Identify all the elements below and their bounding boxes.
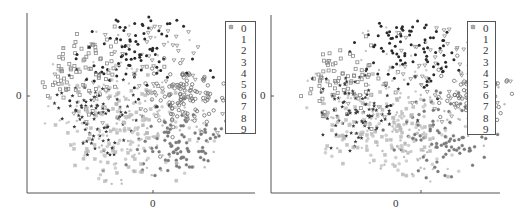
legend-marker-icon [470,57,482,67]
legend-item: 2 [470,45,492,56]
scatter-panel-left: 0 0 0123456789 [0,0,258,221]
legend-item: 2 [228,45,252,56]
legend: 0123456789 [467,21,496,135]
legend-marker-icon [228,46,240,56]
legend-item: 9 [228,124,252,135]
scatter-panel-right: 0 0 0123456789 [258,0,516,221]
legend-marker-icon [228,68,240,78]
legend-item: 1 [470,34,492,45]
legend-item: 4 [228,68,252,79]
legend-marker-icon [228,102,240,112]
legend-label: 8 [241,113,247,124]
legend-marker-icon [470,91,482,101]
y-tick-label-zero: 0 [16,90,22,101]
legend-label: 7 [241,101,247,112]
legend-marker-icon [470,46,482,56]
legend: 0123456789 [225,21,256,134]
x-tick-label-zero: 0 [150,198,156,209]
legend-item: 7 [470,101,492,112]
legend-label: 3 [241,57,247,68]
legend-marker-icon [228,91,240,101]
legend-marker-icon [228,57,240,67]
legend-label: 3 [483,57,489,68]
legend-label: 7 [483,101,489,112]
y-tick-label-zero: 0 [260,90,266,101]
x-tick-label-zero: 0 [393,198,399,209]
legend-marker-icon [228,113,240,123]
legend-label: 2 [483,45,489,56]
legend-marker-icon [470,124,482,134]
scatter-plot-left [0,0,258,221]
legend-marker-icon [470,102,482,112]
legend-item: 1 [228,34,252,45]
legend-item: 6 [228,90,252,101]
legend-item: 8 [228,113,252,124]
legend-item: 5 [228,79,252,90]
legend-item: 9 [470,124,492,135]
legend-marker-icon [470,80,482,90]
legend-marker-icon [470,35,482,45]
legend-marker-icon [228,80,240,90]
legend-marker-icon [470,113,482,123]
legend-item: 7 [228,101,252,112]
legend-label: 2 [241,45,247,56]
legend-label: 8 [483,113,489,124]
legend-item: 8 [470,113,492,124]
legend-label: 9 [483,124,489,135]
legend-item: 3 [228,57,252,68]
legend-marker-icon [470,68,482,78]
legend-label: 9 [241,124,247,135]
legend-marker-icon [228,124,240,134]
legend-marker-icon [228,35,240,45]
